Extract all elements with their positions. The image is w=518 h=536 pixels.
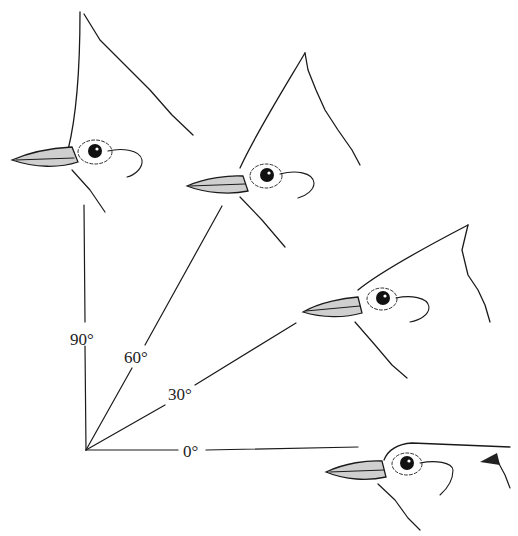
angle-label-0: 0° bbox=[183, 442, 198, 461]
ray-60-upper bbox=[145, 206, 222, 345]
angle-rays bbox=[84, 205, 358, 450]
crest-angle-diagram: 90° 60° 30° 0° bbox=[0, 0, 518, 536]
bird-head-60 bbox=[187, 53, 360, 247]
ray-30-upper bbox=[195, 323, 296, 385]
ray-90-upper bbox=[84, 205, 85, 322]
eye-icon bbox=[88, 144, 102, 158]
angle-label-60: 60° bbox=[124, 348, 148, 367]
bird-head-0 bbox=[326, 443, 510, 530]
ray-90-lower bbox=[85, 346, 86, 450]
eye-icon bbox=[376, 291, 390, 305]
angle-label-30: 30° bbox=[168, 385, 192, 404]
ray-30-lower bbox=[86, 405, 165, 450]
ray-0-right bbox=[206, 447, 358, 450]
bird-head-90 bbox=[12, 12, 193, 212]
eye-icon bbox=[400, 456, 414, 470]
eye-icon bbox=[260, 168, 274, 182]
bird-head-30 bbox=[303, 225, 490, 378]
ray-60-lower bbox=[86, 368, 132, 450]
angle-label-90: 90° bbox=[70, 330, 94, 349]
